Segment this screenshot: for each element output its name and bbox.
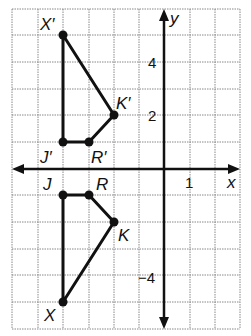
coordinate-plane: y x 4 2 1 −4 X′ K′ J′ R′ J R K X [0,0,251,336]
label-r-prime: R′ [91,148,107,167]
label-k: K [118,226,130,245]
vertex-j [59,191,68,200]
label-x: X [43,306,56,325]
y-axis-label: y [169,9,180,28]
label-k-prime: K′ [116,94,131,113]
tick-label-neg4: −4 [138,269,155,286]
label-r: R [96,175,108,194]
tick-label-2: 2 [148,107,156,124]
vertex-r [85,191,94,200]
tick-label-1: 1 [185,174,193,191]
vertex-j-prime [59,138,68,147]
vertex-x [59,298,68,307]
tick-label-4: 4 [148,54,156,71]
label-x-prime: X′ [39,15,55,34]
vertex-r-prime [85,138,94,147]
label-j-prime: J′ [39,148,53,167]
label-j: J [42,175,52,194]
vertex-x-prime [59,31,68,40]
x-axis-label: x [226,173,236,192]
